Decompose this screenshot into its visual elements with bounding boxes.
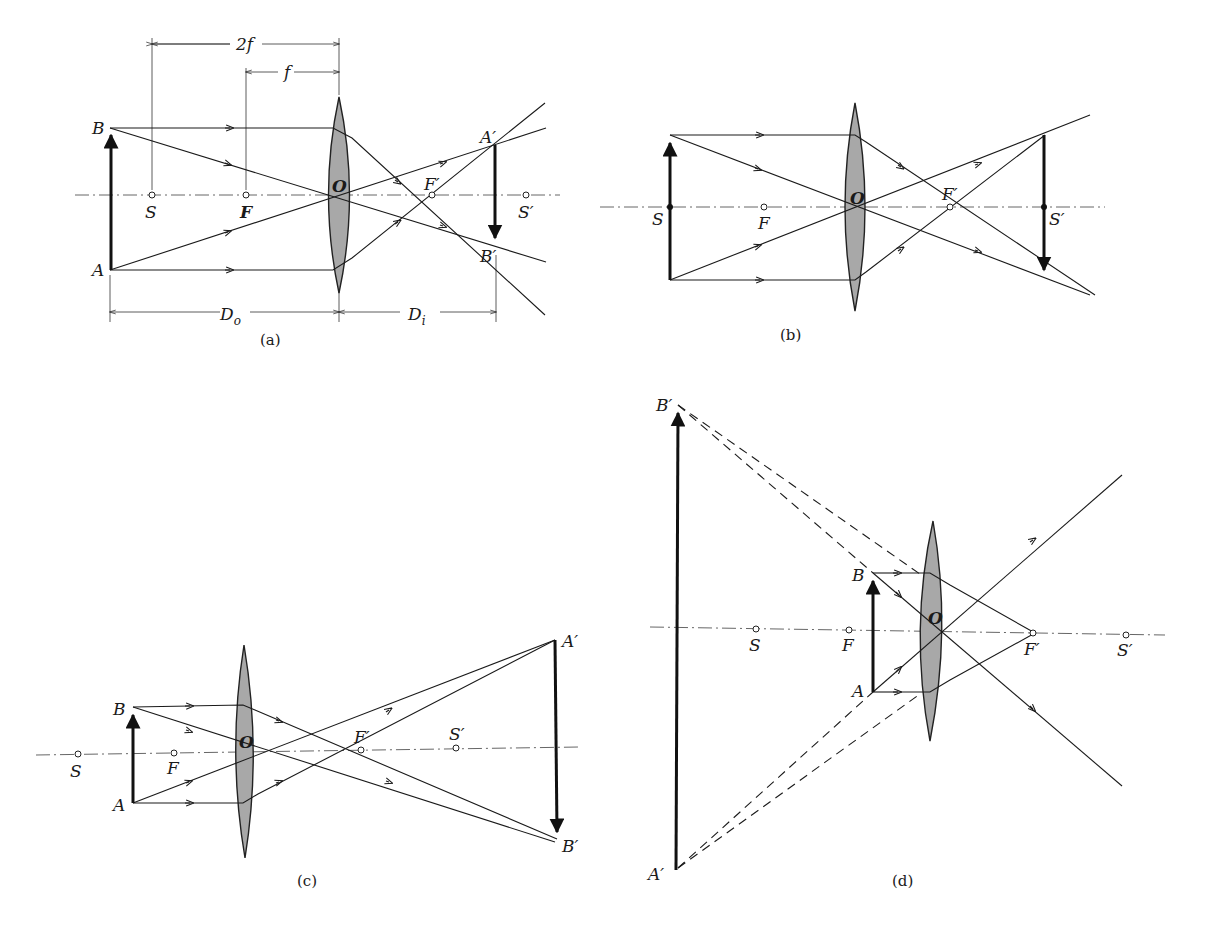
label-F: F <box>239 202 254 222</box>
caption-c: (c) <box>297 872 317 890</box>
label-B-prime: B′ <box>561 836 578 856</box>
label-O: O <box>239 732 254 752</box>
label-S: S <box>749 635 761 655</box>
label-S-prime: S′ <box>1049 209 1065 229</box>
label-F: F <box>841 635 855 655</box>
caption-b: (b) <box>780 326 801 344</box>
optical-axis <box>650 627 1165 635</box>
label-S-prime: S′ <box>518 202 534 222</box>
label-F-prime: F′ <box>353 727 370 747</box>
label-A: A <box>850 681 864 701</box>
caption-a: (a) <box>260 331 281 349</box>
caption-d: (d) <box>892 872 913 890</box>
label-S: S <box>652 209 664 229</box>
label-O: O <box>928 608 943 628</box>
label-A-prime: A′ <box>478 127 496 147</box>
label-A: A <box>111 795 125 815</box>
label-f: f <box>282 62 293 82</box>
panel-b: S F O F′ S′ (b) <box>600 103 1105 344</box>
panel-c: B A S F O F′ S′ A′ B′ (c) <box>36 631 580 890</box>
label-B-prime: B′ <box>479 246 496 266</box>
label-O: O <box>332 176 347 196</box>
label-F-prime: F′ <box>941 184 958 204</box>
label-B: B <box>851 565 865 585</box>
label-B: B <box>91 118 105 138</box>
label-2f: 2f <box>235 34 256 54</box>
image-arrow <box>555 640 557 832</box>
label-Di: Di <box>407 304 426 328</box>
label-S-prime: S′ <box>1117 640 1133 660</box>
label-F-prime: F′ <box>1023 639 1040 659</box>
lens-diagram-figure: 2f f Do Di B A S <box>0 0 1205 927</box>
label-B: B <box>112 699 126 719</box>
optical-axis <box>36 747 580 755</box>
panel-d: B′ A′ B A S F O F′ S′ (d) <box>646 395 1165 890</box>
convex-lens <box>920 521 942 741</box>
label-S-prime: S′ <box>449 724 465 744</box>
label-S: S <box>70 761 82 781</box>
label-F-prime: F′ <box>423 174 440 194</box>
label-B-prime: B′ <box>655 395 672 415</box>
label-A-prime: A′ <box>560 631 578 651</box>
label-O: O <box>850 188 865 208</box>
label-A: A <box>90 260 104 280</box>
panel-a: 2f f Do Di B A S <box>75 34 560 349</box>
label-F: F <box>166 758 180 778</box>
label-F: F <box>757 213 771 233</box>
label-A-prime: A′ <box>646 864 664 884</box>
virtual-image-arrow <box>676 413 678 870</box>
label-S: S <box>145 202 157 222</box>
label-Do: Do <box>219 304 241 328</box>
